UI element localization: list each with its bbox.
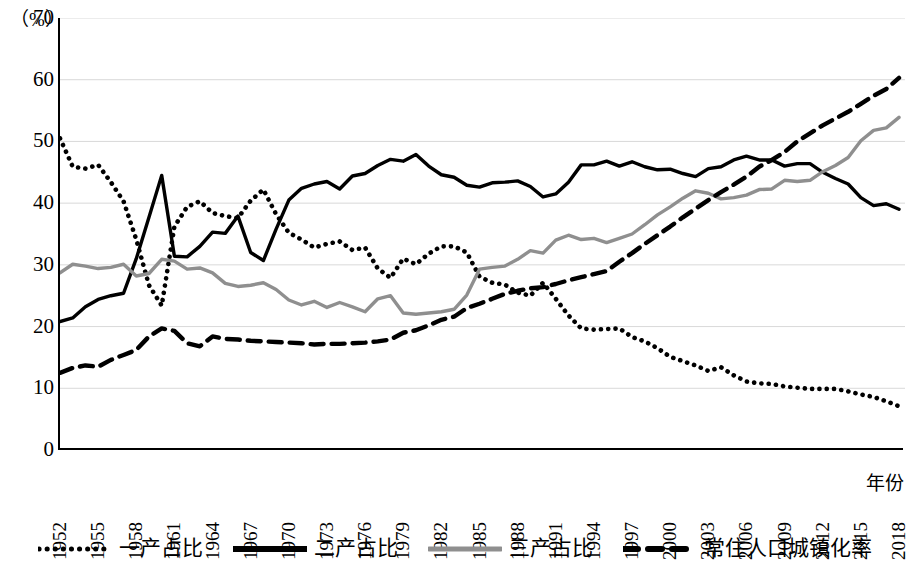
x-axis-tick-layer: 1952195519581961196419671970197319761979… [58,452,909,528]
y-axis-tick-label: 20 [6,316,54,337]
y-axis-tick-label: 60 [6,69,54,90]
chart-page: （%） 010203040506070 19521955195819611964… [0,0,909,565]
y-axis-tick-label: 30 [6,254,54,275]
legend-item-3[interactable]: 三产占比 [428,538,593,559]
x-axis-title: 年份 [866,468,904,495]
y-axis-tick-label: 50 [6,130,54,151]
legend-label: 一产占比 [119,538,203,559]
y-axis-tick-layer: 010203040506070 [0,18,54,450]
legend-swatch-dotted [38,542,112,556]
y-axis-tick-label: 40 [6,192,54,213]
series-line-2 [60,154,899,321]
y-axis-tick-label: 70 [6,7,54,28]
plot-area [58,18,903,450]
legend-label: 三产占比 [509,538,593,559]
legend-item-4[interactable]: 常住人口城镇化率 [623,538,872,559]
chart-legend: 一产占比二产占比三产占比常住人口城镇化率 [0,532,909,565]
chart-svg [60,18,905,450]
y-axis-tick-label: 0 [6,439,54,460]
y-axis-tick-label: 10 [6,377,54,398]
series-line-4 [60,78,899,373]
legend-label: 常住人口城镇化率 [704,538,872,559]
legend-label: 二产占比 [314,538,398,559]
legend-item-1[interactable]: 一产占比 [38,538,203,559]
legend-swatch-solid [428,542,502,556]
legend-item-2[interactable]: 二产占比 [233,538,398,559]
series-line-3 [60,117,899,314]
legend-swatch-solid [233,542,307,556]
legend-swatch-dashed [623,542,697,556]
